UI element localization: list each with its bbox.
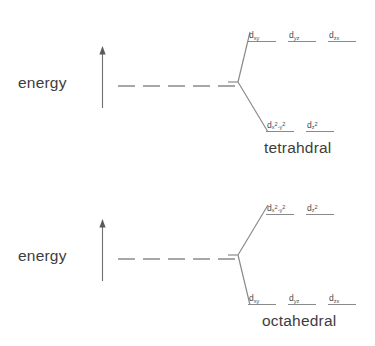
tetrahedral-upper-orbital-set: dxy dyz dzx [248, 20, 356, 42]
orbital-label: dz2 [307, 204, 318, 213]
orbital-level: dyz [288, 283, 316, 305]
barycenter-dashed-line [118, 255, 240, 263]
orbital-level: dzx [328, 20, 356, 42]
orbital-label: dzx [329, 294, 339, 303]
orbital-label: dzx [329, 31, 339, 40]
geometry-caption: octahedral [262, 312, 336, 330]
geometry-caption: tetrahdral [264, 139, 331, 157]
orbital-label: dx2-y2 [267, 121, 285, 130]
octahedral-splitting-diagram: energy dx2-y2 dz2 dxy dyz dzx [0, 173, 375, 346]
orbital-level-bar [248, 41, 276, 42]
barycenter-dashed-line [118, 82, 240, 90]
octahedral-lower-orbital-set: dxy dyz dzx [248, 283, 356, 305]
orbital-level: dxy [248, 283, 276, 305]
orbital-level-bar [306, 214, 334, 215]
orbital-label: dz2 [307, 121, 318, 130]
orbital-level-bar [328, 304, 356, 305]
energy-axis-arrow-icon [97, 46, 108, 108]
orbital-level-bar [266, 214, 294, 215]
orbital-level: dyz [288, 20, 316, 42]
tetrahedral-lower-orbital-set: dx2-y2 dz2 [266, 110, 334, 132]
orbital-level: dzx [328, 283, 356, 305]
orbital-level-bar [328, 41, 356, 42]
orbital-level-bar [248, 304, 276, 305]
orbital-level: dx2-y2 [266, 110, 294, 132]
orbital-label: dyz [289, 31, 299, 40]
orbital-level-bar [266, 131, 294, 132]
octahedral-upper-orbital-set: dx2-y2 dz2 [266, 193, 334, 215]
orbital-label: dx2-y2 [267, 204, 285, 213]
energy-axis-arrow-icon [97, 219, 108, 281]
orbital-level: dx2-y2 [266, 193, 294, 215]
orbital-level: dxy [248, 20, 276, 42]
orbital-label: dyz [289, 294, 299, 303]
orbital-label: dxy [249, 294, 259, 303]
tetrahedral-splitting-diagram: energy dxy dyz dzx dx2-y2 dz2 [0, 0, 375, 173]
orbital-label: dxy [249, 31, 259, 40]
orbital-level-bar [288, 41, 316, 42]
orbital-level-bar [288, 304, 316, 305]
energy-axis-label: energy [18, 74, 67, 92]
orbital-level: dz2 [306, 193, 334, 215]
orbital-level-bar [306, 131, 334, 132]
energy-axis-label: energy [18, 247, 67, 265]
orbital-level: dz2 [306, 110, 334, 132]
